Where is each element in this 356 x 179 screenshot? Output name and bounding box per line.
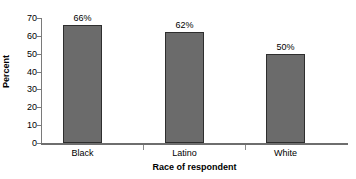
bar-value-black: 66% [73, 14, 91, 23]
x-category-label-white: White [274, 149, 297, 158]
bar-value-latino: 62% [175, 21, 193, 30]
plot-area: 66% 62% 50% [42, 18, 348, 143]
y-tick-label: 60 [14, 32, 37, 41]
x-axis-separator-tick [245, 145, 246, 150]
bar-black [63, 25, 102, 143]
y-tick-label: 20 [14, 103, 37, 112]
y-axis-title: Percent [0, 0, 14, 143]
bar-value-white: 50% [276, 43, 294, 52]
y-tick-label: 30 [14, 85, 37, 94]
y-tick-label: 50 [14, 50, 37, 59]
y-tick-label: 40 [14, 68, 37, 77]
bar-chart: Percent 0 10 20 30 40 50 60 70 66% 62% 5… [0, 0, 356, 179]
bar-latino [165, 32, 204, 143]
x-category-label-black: Black [71, 149, 93, 158]
y-tick-label: 10 [14, 121, 37, 130]
y-tick-label: 0 [14, 139, 37, 148]
y-tick-label: 70 [14, 14, 37, 23]
x-axis-separator-tick [143, 145, 144, 150]
bar-white [266, 54, 305, 143]
x-category-label-latino: Latino [172, 149, 197, 158]
x-axis-line [41, 143, 348, 145]
y-axis-title-text: Percent [3, 55, 12, 88]
y-axis-tick-labels: 0 10 20 30 40 50 60 70 [14, 0, 37, 179]
x-axis-title: Race of respondent [41, 163, 348, 172]
